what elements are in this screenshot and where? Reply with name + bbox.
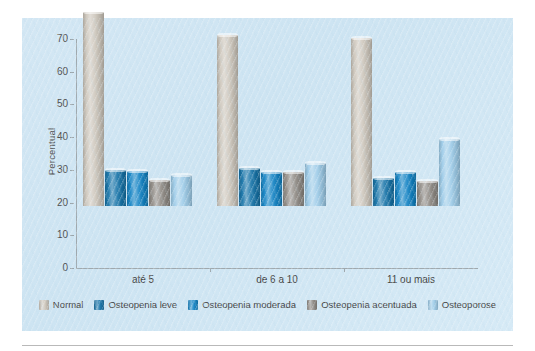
y-tick-label: 70 — [46, 34, 68, 44]
legend-swatch-shading — [307, 300, 317, 310]
bar-cylinder-shading — [83, 12, 104, 206]
y-tick-mark — [70, 104, 74, 105]
bar-top-cap — [305, 161, 326, 165]
bar-normal[interactable] — [83, 12, 104, 206]
bar-top-cap — [261, 170, 282, 174]
bar-normal[interactable] — [217, 35, 238, 206]
y-tick-mark — [70, 235, 74, 236]
legend-swatch-shading — [188, 300, 198, 310]
bars-layer: até 5de 6 a 1011 ou mais — [76, 18, 478, 331]
x-category-label: até 5 — [76, 274, 210, 285]
y-axis-tick-labels: 706050403020100 — [42, 18, 68, 331]
bar-osteopenia-acentuada[interactable] — [149, 180, 170, 206]
y-tick-mark — [70, 268, 74, 269]
legend-item-osteopenia-moderada[interactable]: Osteopenia moderada — [188, 299, 296, 310]
bar-top-cap — [351, 36, 372, 40]
legend-label: Normal — [53, 299, 84, 310]
chart-legend: NormalOsteopenia leveOsteopenia moderada… — [22, 299, 513, 310]
bar-cylinder-shading — [351, 38, 372, 206]
x-category-label: 11 ou mais — [344, 274, 478, 285]
y-tick-mark — [70, 72, 74, 73]
y-tick-label: 20 — [46, 198, 68, 208]
x-axis-separator-tick — [210, 268, 211, 272]
page-divider-rule — [22, 345, 513, 346]
bar-top-cap — [171, 173, 192, 177]
legend-swatch-shading — [428, 300, 438, 310]
bar-top-cap — [105, 168, 126, 172]
bar-osteoporose[interactable] — [305, 163, 326, 207]
bar-cylinder-shading — [373, 178, 394, 206]
bar-top-cap — [127, 169, 148, 173]
x-category-label: de 6 a 10 — [210, 274, 344, 285]
bar-cylinder-shading — [105, 170, 126, 206]
legend-label: Osteoporose — [442, 299, 496, 310]
bar-cylinder-shading — [149, 180, 170, 206]
x-axis-separator-tick — [344, 268, 345, 272]
y-tick-label: 60 — [46, 67, 68, 77]
bar-top-cap — [83, 10, 104, 14]
legend-item-normal[interactable]: Normal — [39, 299, 84, 310]
legend-swatch-icon — [39, 300, 49, 310]
bar-osteopenia-acentuada[interactable] — [283, 172, 304, 206]
y-tick-label: 50 — [46, 99, 68, 109]
chart-figure-panel: Percentual 706050403020100 até 5de 6 a 1… — [22, 18, 513, 331]
bar-osteopenia-moderada[interactable] — [127, 171, 148, 206]
bar-cylinder-shading — [283, 172, 304, 206]
legend-item-osteopenia-leve[interactable]: Osteopenia leve — [94, 299, 177, 310]
legend-label: Osteopenia leve — [108, 299, 177, 310]
bar-top-cap — [395, 170, 416, 174]
bar-cylinder-shading — [261, 172, 282, 206]
y-tick-label: 0 — [46, 263, 68, 273]
bar-cylinder-shading — [217, 35, 238, 206]
y-tick-mark — [70, 170, 74, 171]
bar-top-cap — [283, 170, 304, 174]
bar-group: até 5 — [76, 18, 210, 269]
bar-cylinder-shading — [127, 171, 148, 206]
legend-swatch-icon — [428, 300, 438, 310]
legend-swatch-shading — [94, 300, 104, 310]
bar-top-cap — [417, 179, 438, 183]
y-tick-label: 40 — [46, 132, 68, 142]
bar-group: de 6 a 10 — [210, 18, 344, 269]
bar-top-cap — [439, 137, 460, 141]
legend-item-osteopenia-acentuada[interactable]: Osteopenia acentuada — [307, 299, 417, 310]
bar-normal[interactable] — [351, 38, 372, 206]
bar-top-cap — [239, 166, 260, 170]
bar-osteoporose[interactable] — [439, 139, 460, 206]
legend-swatch-icon — [94, 300, 104, 310]
bar-cylinder-shading — [171, 175, 192, 206]
bar-osteopenia-leve[interactable] — [105, 170, 126, 206]
bar-cylinder-shading — [439, 139, 460, 206]
legend-label: Osteopenia acentuada — [321, 299, 417, 310]
legend-swatch-icon — [188, 300, 198, 310]
y-tick-mark — [70, 137, 74, 138]
y-tick-mark — [70, 39, 74, 40]
legend-label: Osteopenia moderada — [202, 299, 296, 310]
bar-cylinder-shading — [305, 163, 326, 207]
bar-osteopenia-moderada[interactable] — [261, 172, 282, 206]
y-tick-label: 30 — [46, 165, 68, 175]
y-tick-label: 10 — [46, 230, 68, 240]
bar-top-cap — [373, 176, 394, 180]
legend-item-osteoporose[interactable]: Osteoporose — [428, 299, 496, 310]
bar-cylinder-shading — [395, 172, 416, 206]
plot-area: Percentual 706050403020100 até 5de 6 a 1… — [22, 18, 513, 331]
bar-osteopenia-leve[interactable] — [373, 178, 394, 206]
bar-osteoporose[interactable] — [171, 175, 192, 206]
bar-osteopenia-moderada[interactable] — [395, 172, 416, 206]
bar-osteopenia-leve[interactable] — [239, 168, 260, 206]
y-tick-mark — [70, 203, 74, 204]
legend-swatch-icon — [307, 300, 317, 310]
bar-top-cap — [217, 33, 238, 37]
bar-group: 11 ou mais — [344, 18, 478, 269]
bar-cylinder-shading — [239, 168, 260, 206]
legend-swatch-shading — [39, 300, 49, 310]
bar-top-cap — [149, 178, 170, 182]
bar-osteopenia-acentuada[interactable] — [417, 181, 438, 206]
bar-cylinder-shading — [417, 181, 438, 206]
